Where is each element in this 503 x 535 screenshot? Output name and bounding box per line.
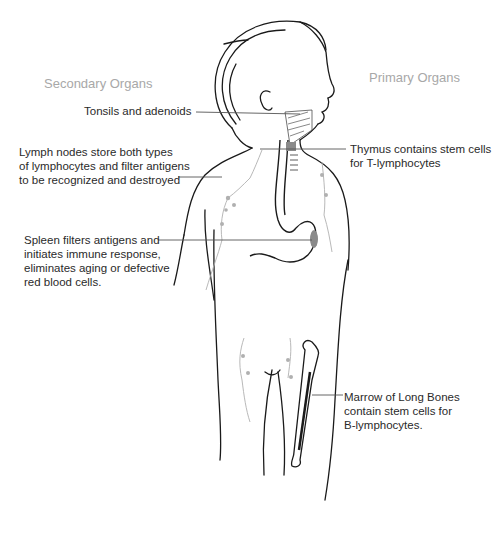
thymus-organ	[286, 142, 296, 151]
heading-primary-organs: Primary Organs	[369, 70, 460, 85]
esophagus-stomach	[250, 140, 316, 262]
lymph-nodes	[220, 173, 328, 379]
label-marrow: Marrow of Long Bones contain stem cells …	[344, 390, 460, 432]
head-outline	[174, 21, 349, 500]
heading-secondary-organs: Secondary Organs	[44, 76, 152, 91]
lymph-vessels	[206, 150, 332, 422]
label-tonsils: Tonsils and adenoids	[84, 104, 191, 118]
immune-system-diagram: Secondary Organs Primary Organs Tonsils …	[0, 0, 503, 535]
label-thymus: Thymus contains stem cells for T-lymphoc…	[350, 142, 491, 170]
pharynx-hatching	[285, 110, 312, 145]
label-spleen: Spleen filters antigens and initiates im…	[24, 233, 170, 289]
trachea	[290, 155, 298, 170]
label-lymph-nodes: Lymph nodes store both types of lymphocy…	[19, 145, 190, 187]
femur-bone	[291, 341, 318, 467]
spleen-organ	[310, 230, 318, 248]
